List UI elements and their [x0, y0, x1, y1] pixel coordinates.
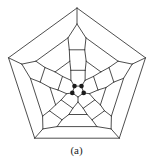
bond-line [118, 61, 132, 64]
bond-line [94, 76, 99, 90]
bond-line [43, 127, 57, 129]
bond-line [85, 50, 87, 61]
bond-line [68, 24, 77, 38]
bond-line [40, 68, 45, 83]
bond-line [97, 127, 111, 129]
bond-line [124, 64, 133, 78]
bond-line [83, 108, 87, 114]
bond-line [35, 129, 43, 138]
bond-line [57, 120, 62, 127]
bond-line [100, 105, 104, 111]
bond-line [40, 82, 50, 87]
bond-line [85, 76, 93, 80]
bond-line [111, 78, 123, 116]
bond-line [106, 82, 114, 87]
bond-line [85, 38, 86, 50]
bond-line [22, 61, 36, 64]
bond-line [89, 94, 94, 100]
bond-line [43, 111, 50, 116]
bond-line [36, 38, 68, 61]
bond-line [50, 88, 56, 105]
bond-line [85, 61, 86, 70]
bond-line [30, 78, 42, 116]
bond-line [77, 8, 146, 58]
bond-line [105, 111, 112, 116]
bond-line [55, 61, 70, 72]
bond-line [61, 100, 73, 108]
bond-line [109, 68, 114, 83]
bond-line [22, 64, 31, 78]
bond-line [100, 88, 106, 105]
bond-line [69, 108, 73, 114]
cage-edges [9, 8, 146, 138]
bond-line [92, 111, 105, 120]
bond-line [87, 115, 92, 120]
highlighted-atom-dot [81, 91, 86, 96]
bond-line [86, 38, 118, 61]
bond-line [50, 105, 56, 111]
bond-line [70, 61, 71, 70]
bond-line [45, 68, 55, 72]
bond-line [69, 50, 70, 61]
bond-line [101, 68, 109, 72]
bond-line [89, 90, 98, 94]
highlighted-atom-dot [70, 91, 75, 96]
bond-line [77, 24, 86, 38]
bond-line [62, 115, 69, 120]
bond-line [63, 76, 71, 80]
bond-line [9, 58, 35, 138]
bond-line [58, 90, 67, 94]
bond-line [94, 72, 101, 77]
highlighted-atoms [70, 84, 86, 95]
bond-line [56, 100, 62, 105]
bond-line [111, 129, 119, 138]
bond-line [58, 76, 63, 90]
fullerene-schlegel-diagram [0, 0, 153, 167]
bond-line [98, 88, 106, 91]
bond-line [68, 38, 69, 50]
highlighted-atom-dot [72, 84, 77, 89]
bond-line [36, 61, 45, 67]
bond-line [95, 100, 101, 105]
bond-line [50, 111, 63, 120]
bond-line [92, 120, 97, 127]
bond-line [9, 8, 78, 58]
bond-line [78, 102, 83, 108]
bond-line [61, 94, 66, 100]
bond-line [83, 100, 95, 108]
bond-line [86, 61, 101, 72]
bond-line [73, 102, 78, 108]
bond-line [119, 58, 145, 138]
bond-line [55, 72, 62, 77]
figure-caption: (a) [0, 144, 153, 156]
highlighted-atom-dot [79, 84, 84, 89]
bond-line [50, 88, 58, 91]
bond-line [109, 61, 118, 67]
